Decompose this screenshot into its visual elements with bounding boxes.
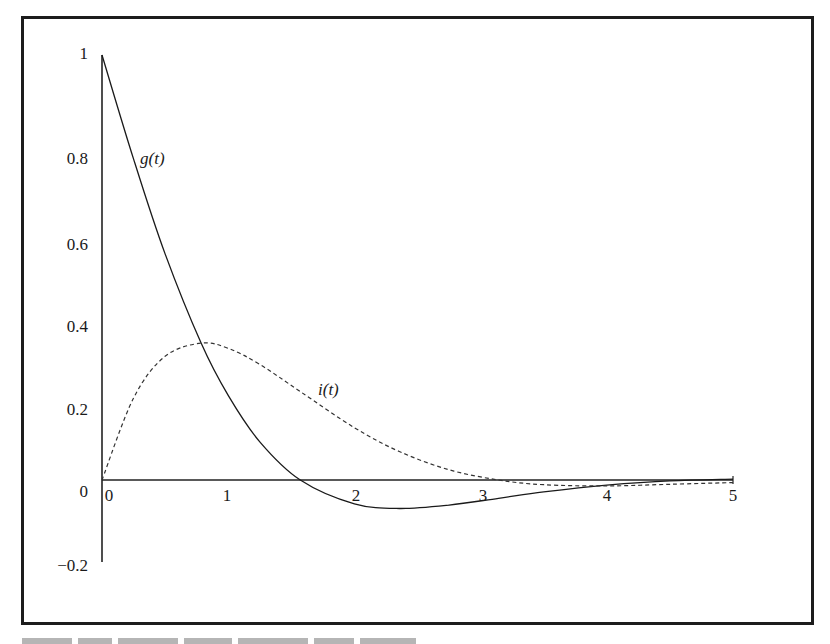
x-tick-label: 3: [473, 487, 493, 504]
y-tick-label: 0: [38, 483, 88, 500]
x-tick-label: 0: [99, 487, 119, 504]
y-tick-label: 0.8: [38, 150, 88, 167]
g-curve-label: g(t): [140, 149, 165, 169]
x-tick-label: 1: [217, 487, 237, 504]
x-tick-label: 2: [346, 487, 366, 504]
y-tick-label: 0.4: [38, 318, 88, 335]
i-curve: [102, 343, 733, 486]
y-tick-label: 0.2: [38, 401, 88, 418]
y-tick-label: −0.2: [38, 557, 88, 574]
y-tick-label: 1: [38, 45, 88, 62]
x-tick-label: 5: [723, 487, 743, 504]
y-tick-label: 0.6: [38, 236, 88, 253]
x-tick-label: 4: [597, 487, 617, 504]
i-curve-label: i(t): [318, 380, 339, 400]
g-curve: [102, 55, 733, 509]
figure-caption-clipped: [22, 632, 422, 644]
